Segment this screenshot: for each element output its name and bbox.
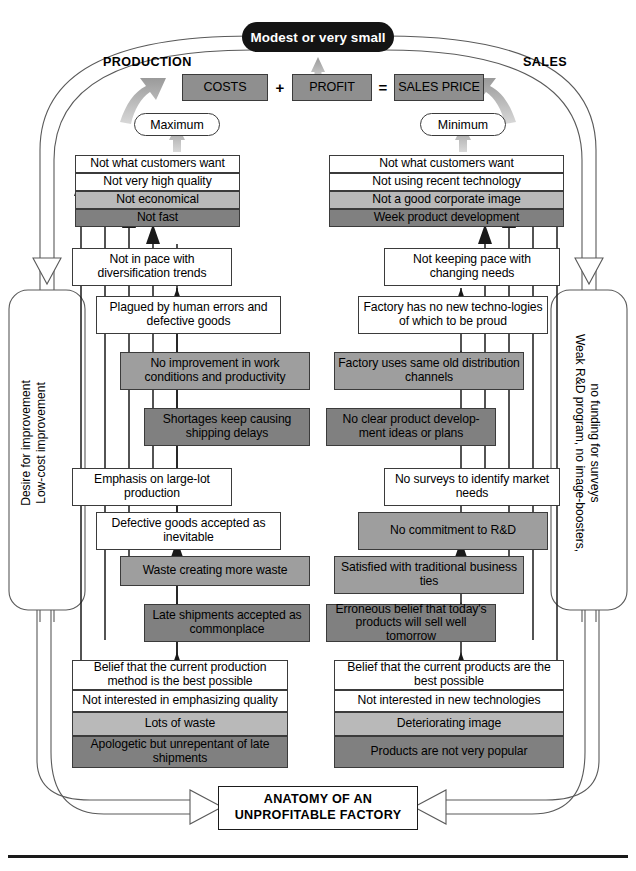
left-pipeline-label-line2: Low-cost improvement [33,293,51,593]
header-production: PRODUCTION [103,55,192,69]
sales-price-box: SALES PRICE [394,74,484,101]
prod-cascade-0: Not in pace with diversification trends [72,248,232,286]
sales-cascade-1: Factory has no new techno-logies of whic… [358,296,548,334]
minimum-capsule: Minimum [420,113,506,136]
prod-base-2: Lots of waste [72,712,288,736]
prod-cascade2-3: Late shipments accepted as commonplace [144,604,310,642]
costs-box: COSTS [182,74,268,101]
prod-stack-row-0: Not what customers want [75,155,240,173]
sales-cascade2-1: No commitment to R&D [358,512,548,550]
sales-cascade2-0: No surveys to identify market needs [384,468,560,506]
sales-cascade2-2: Satisfied with traditional business ties [334,556,524,594]
diagram-canvas: Modest or very small PRODUCTION SALES CO… [0,0,636,871]
profit-box: PROFIT [292,74,372,101]
prod-stack-row-1: Not very high quality [75,173,240,191]
sales-base-2: Deteriorating image [334,712,564,736]
prod-base-3: Apologetic but unrepentant of late shipm… [72,736,288,768]
prod-stack-row-2: Not economical [75,191,240,209]
header-sales: SALES [523,55,567,69]
prod-stack-row-3: Not fast [75,209,240,227]
sales-stack-row-0: Not what customers want [329,155,564,173]
anatomy-title-box: ANATOMY OF AN UNPROFITABLE FACTORY [218,786,418,830]
plus-operator: + [268,74,292,101]
sales-stack-row-3: Week product development [329,209,564,227]
sales-cascade-0: Not keeping pace with changing needs [384,248,560,286]
prod-cascade2-2: Waste creating more waste [120,556,310,586]
sales-base-3: Products are not very popular [334,736,564,768]
prod-cascade2-1: Defective goods accepted as inevitable [96,512,281,550]
prod-base-1: Not interested in emphasizing quality [72,690,288,712]
equals-operator: = [372,74,394,101]
sales-base-0: Belief that the current products are the… [334,660,564,690]
sales-cascade2-3: Erroneous belief that today's products w… [326,604,496,642]
sales-cascade-2: Factory uses same old distribution chann… [334,352,524,390]
sales-stack-row-2: Not a good corporate image [329,191,564,209]
prod-base-0: Belief that the current production metho… [72,660,288,690]
prod-cascade-3: Shortages keep causing shipping delays [144,408,310,446]
prod-cascade2-0: Emphasis on large-lot production [72,468,232,506]
maximum-capsule: Maximum [134,113,220,136]
modest-profit-capsule: Modest or very small [242,22,394,52]
prod-cascade-2: No improvement in work conditions and pr… [120,352,310,390]
sales-stack-row-1: Not using recent technology [329,173,564,191]
sales-cascade-3: No clear product develop-ment ideas or p… [326,408,496,446]
bottom-rule [8,855,628,858]
sales-base-1: Not interested in new technologies [334,690,564,712]
right-pipeline-label-line2: no funding for surveys [585,293,603,593]
prod-cascade-1: Plagued by human errors and defective go… [96,296,281,334]
